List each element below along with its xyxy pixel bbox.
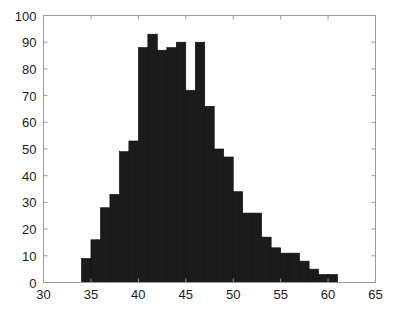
x-tick-label: 35 (84, 287, 98, 302)
histogram-bar (138, 48, 147, 283)
histogram-bar (214, 149, 223, 283)
histogram-bar (148, 34, 157, 282)
histogram-bar (252, 213, 261, 282)
histogram-bar (300, 261, 309, 282)
histogram-bar (195, 42, 204, 282)
histogram-bar (243, 213, 252, 282)
y-tick-label: 100 (15, 9, 37, 24)
histogram-bar (91, 240, 100, 283)
histogram-bar (129, 141, 138, 283)
x-tick-label: 60 (321, 287, 335, 302)
histogram-bar (309, 269, 318, 282)
y-tick-label: 10 (22, 249, 36, 264)
y-tick-label: 40 (22, 169, 36, 184)
histogram-bar (100, 208, 109, 283)
histogram-bar (281, 253, 290, 282)
histogram-bar (176, 42, 185, 282)
histogram-bar (271, 248, 280, 283)
histogram-bar (110, 194, 119, 282)
x-tick-label: 30 (36, 287, 50, 302)
histogram-bar (119, 152, 128, 283)
y-tick-label: 70 (22, 89, 36, 104)
y-tick-label: 80 (22, 62, 36, 77)
y-tick-label: 60 (22, 115, 36, 130)
y-tick-label: 20 (22, 222, 36, 237)
y-tick-label: 0 (29, 276, 36, 291)
histogram-bar (167, 48, 176, 283)
histogram-bar (186, 90, 195, 282)
x-tick-label: 65 (368, 287, 382, 302)
histogram-plot: 3035404550556065 0102030405060708090100 (0, 0, 401, 312)
histogram-bar (233, 192, 242, 283)
histogram-bar (157, 50, 166, 282)
y-tick-label: 90 (22, 35, 36, 50)
histogram-bar (224, 157, 233, 282)
x-tick-label: 45 (179, 287, 193, 302)
histogram-bar (81, 258, 90, 282)
y-tick-label: 50 (22, 142, 36, 157)
histogram-figure: 3035404550556065 0102030405060708090100 (0, 0, 401, 312)
x-tick-label: 40 (131, 287, 145, 302)
x-tick-label: 55 (273, 287, 287, 302)
y-tick-label: 30 (22, 195, 36, 210)
histogram-bar (328, 274, 337, 282)
histogram-bar (205, 106, 214, 282)
histogram-bar (290, 253, 299, 282)
histogram-bar (319, 274, 328, 282)
histogram-bar (262, 237, 271, 282)
x-tick-label: 50 (226, 287, 240, 302)
